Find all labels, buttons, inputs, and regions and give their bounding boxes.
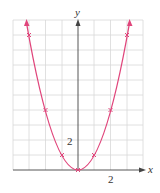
x-axis-label: x: [147, 163, 153, 175]
parabola-chart: x y 2 2: [0, 0, 160, 193]
axes: [13, 23, 142, 170]
y-axis-label: y: [74, 6, 80, 18]
x-axis-arrow-icon: [139, 168, 146, 173]
x-tick-label: 2: [108, 173, 114, 185]
y-tick-label: 2: [67, 135, 73, 147]
